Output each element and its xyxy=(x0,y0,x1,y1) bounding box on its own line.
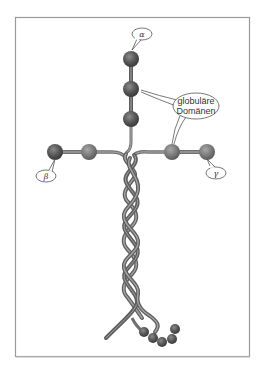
globular-domain-bead xyxy=(123,51,139,67)
globular-domain-bead xyxy=(47,144,63,160)
globular-domain-bead xyxy=(81,144,97,160)
globular-domain-bead xyxy=(123,111,139,127)
alpha-beads xyxy=(123,51,139,127)
globular-domains-label-line2: Domänen xyxy=(176,106,215,116)
alpha-label: α xyxy=(139,30,145,39)
gamma-label: γ xyxy=(214,169,219,178)
fibrinogen-diagram: α β γ globuläre Domänen xyxy=(0,0,263,368)
globular-domain-bead xyxy=(123,81,139,97)
globular-domain-bead xyxy=(164,144,180,160)
globular-domain-bead xyxy=(199,144,215,160)
globular-domains-label-line1: globuläre xyxy=(177,96,214,106)
beta-label: β xyxy=(43,172,49,181)
